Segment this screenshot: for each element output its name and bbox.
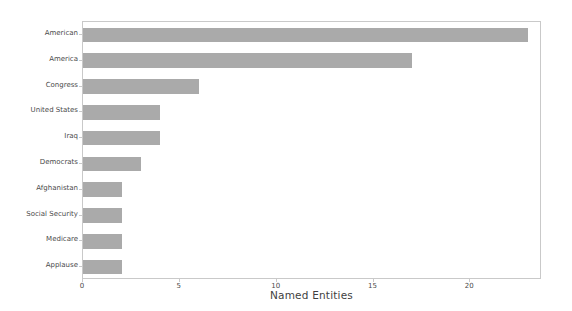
bar-row	[83, 234, 540, 248]
x-tick-mark	[276, 279, 277, 282]
y-tick-label: Social Security	[0, 210, 78, 218]
x-tick-label: 15	[353, 282, 393, 290]
y-tick-label: Afghanistan	[0, 184, 78, 192]
bar-row	[83, 79, 540, 93]
bar	[83, 234, 122, 248]
x-tick-mark	[179, 279, 180, 282]
bar	[83, 28, 528, 42]
y-tick-label: American	[0, 29, 78, 37]
y-tick-label: Democrats	[0, 158, 78, 166]
bar-row	[83, 208, 540, 222]
x-tick-label: 0	[62, 282, 102, 290]
bar	[83, 182, 122, 196]
y-tick-label: United States	[0, 106, 78, 114]
bar	[83, 79, 199, 93]
bar	[83, 157, 141, 171]
plot-area	[82, 21, 541, 279]
x-tick-mark	[82, 279, 83, 282]
bar-chart-figure: Frequency Named Entities AmericanAmerica…	[0, 0, 572, 311]
bar-row	[83, 182, 540, 196]
bar	[83, 105, 160, 119]
bar-row	[83, 157, 540, 171]
bar-row	[83, 105, 540, 119]
x-tick-mark	[469, 279, 470, 282]
bar-row	[83, 131, 540, 145]
x-tick-label: 20	[449, 282, 489, 290]
bar-row	[83, 53, 540, 67]
bar-row	[83, 28, 540, 42]
bar	[83, 53, 412, 67]
bar	[83, 131, 160, 145]
bar	[83, 260, 122, 274]
y-tick-label: Medicare	[0, 235, 78, 243]
bar-row	[83, 260, 540, 274]
y-tick-label: America	[0, 55, 78, 63]
x-tick-mark	[373, 279, 374, 282]
x-tick-label: 5	[159, 282, 199, 290]
bar-series	[83, 22, 540, 278]
x-axis-title: Named Entities	[82, 289, 541, 301]
x-tick-label: 10	[256, 282, 296, 290]
y-tick-label: Iraq	[0, 132, 78, 140]
bar	[83, 208, 122, 222]
y-tick-label: Applause	[0, 261, 78, 269]
y-tick-label: Congress	[0, 81, 78, 89]
